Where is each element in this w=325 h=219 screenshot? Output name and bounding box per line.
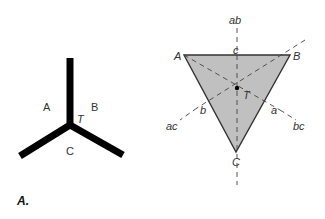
region-a-label: A bbox=[43, 101, 51, 113]
vertex-c-label: C bbox=[232, 156, 240, 168]
bisector-ac-line bbox=[180, 108, 197, 120]
triple-junction-diagram: A B T C bbox=[20, 58, 123, 157]
midpoint-a-label: a bbox=[271, 104, 277, 116]
right-boundary bbox=[70, 125, 123, 155]
region-c-label: C bbox=[66, 145, 74, 157]
triangle-diagram: ab c A B T b a ac bc C bbox=[166, 14, 305, 185]
left-boundary bbox=[20, 125, 70, 156]
midpoint-b-label: b bbox=[200, 104, 206, 116]
junction-t-label: T bbox=[77, 113, 85, 125]
center-point-t bbox=[235, 86, 239, 90]
bisector-ac-label: ac bbox=[166, 120, 178, 132]
midpoint-c-label: c bbox=[233, 44, 239, 56]
bisector-ab-label: ab bbox=[229, 14, 241, 26]
bisector-bc-label: bc bbox=[293, 120, 305, 132]
panel-label: A. bbox=[16, 194, 29, 208]
vertex-a-label: A bbox=[173, 50, 181, 62]
region-b-label: B bbox=[91, 101, 98, 113]
vertex-b-label: B bbox=[293, 50, 300, 62]
bisector-bc-line bbox=[280, 110, 296, 120]
figure-canvas: A B T C ab c A B T b a ac bc C A. bbox=[0, 0, 325, 219]
